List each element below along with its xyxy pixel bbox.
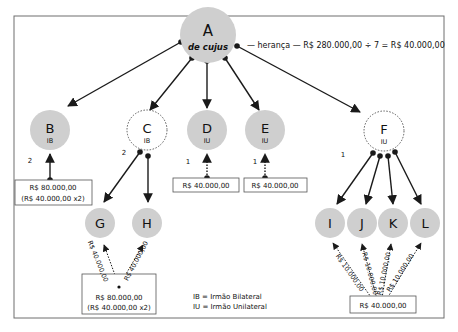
- node-e-sub: IU: [262, 137, 269, 145]
- legend-ib: IB = Irmão Bilateral: [193, 293, 262, 301]
- node-d-weight: 1: [186, 158, 190, 166]
- box-b-line1: R$ 80.000,00: [29, 184, 76, 192]
- box-gh-share: R$ 80.000,00 (R$ 40.000,00 x2): [82, 274, 156, 314]
- box-gh-line2: (R$ 40.000,00 x2): [87, 304, 151, 312]
- node-g: G: [85, 208, 115, 238]
- node-k-label: K: [389, 216, 398, 231]
- box-d-share: R$ 40.000,00: [173, 178, 239, 192]
- node-a-sub: de cujus: [188, 42, 228, 52]
- inheritance-diagram: A de cujus — herança — R$ 280.000,00 ÷ 7…: [0, 0, 458, 332]
- node-c-weight: 2: [122, 149, 126, 157]
- node-e-label: E: [261, 121, 269, 136]
- node-d-sub: IU: [204, 137, 211, 145]
- node-i-label: I: [328, 216, 332, 231]
- node-d-label: D: [202, 121, 212, 136]
- node-j-label: J: [359, 216, 364, 231]
- box-e-share: R$ 40.000,00: [244, 178, 307, 192]
- node-b-label: B: [46, 121, 55, 136]
- node-i: I: [315, 208, 345, 238]
- legend-iu: IU = Irmão Unilateral: [193, 303, 267, 311]
- node-f-weight: 1: [341, 151, 345, 159]
- box-gh-line1: R$ 80.000,00: [95, 294, 142, 302]
- box-b-share: R$ 80.000,00 (R$ 40.000,00 x2): [15, 180, 92, 205]
- node-h: H: [132, 208, 162, 238]
- node-l-label: L: [421, 216, 429, 231]
- node-l: L: [410, 208, 440, 238]
- node-a-label: A: [203, 22, 214, 40]
- node-j: J: [347, 208, 377, 238]
- node-b-weight: 2: [28, 157, 32, 165]
- node-e-weight: 1: [253, 158, 257, 166]
- node-f-sub: IU: [381, 138, 388, 146]
- box-e-line1: R$ 40.000,00: [251, 182, 298, 190]
- node-g-label: G: [95, 216, 105, 231]
- box-b-line2: (R$ 40.000,00 x2): [21, 195, 85, 203]
- node-f-label: F: [380, 122, 387, 137]
- node-c-label: C: [142, 121, 151, 136]
- node-b-sub: IB: [47, 137, 53, 145]
- node-c-sub: IB: [144, 137, 150, 145]
- node-k: K: [378, 208, 408, 238]
- node-a: A de cujus: [180, 7, 236, 63]
- heritage-note: — herança — R$ 280.000,00 ÷ 7 = R$ 40.00…: [247, 41, 445, 50]
- box-ijkl-line1: R$ 40.000,00: [359, 302, 406, 310]
- node-h-label: H: [142, 216, 152, 231]
- box-ijkl-share: R$ 40.000,00: [350, 296, 416, 313]
- box-d-line1: R$ 40.000,00: [182, 182, 229, 190]
